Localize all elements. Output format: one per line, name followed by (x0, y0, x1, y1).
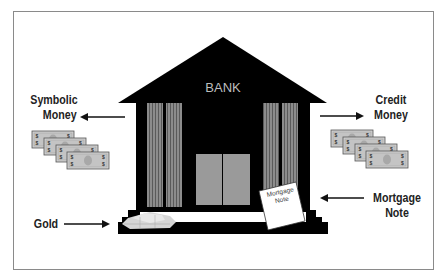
bank-diagram-scene: $ $ $ $ (0, 0, 445, 280)
label-line: Note (370, 205, 424, 220)
label-gold: Gold (33, 216, 59, 231)
label-line: Money (371, 107, 412, 122)
column (166, 103, 182, 207)
label-mortgage-note: Mortgage Note (370, 190, 424, 220)
banknote-stack-icon (32, 131, 109, 169)
label-line: Credit (371, 92, 412, 107)
label-symbolic-money: Symbolic Money (29, 92, 78, 122)
bank-label: BANK (193, 80, 253, 95)
column (147, 103, 163, 207)
label-line: Mortgage (370, 190, 424, 205)
label-line: Money (29, 107, 78, 122)
bank-door (223, 154, 250, 205)
label-credit-money: Credit Money (371, 92, 412, 122)
banknote-stack-icon (331, 130, 408, 168)
bank-door (196, 154, 222, 205)
label-line: Symbolic (29, 92, 78, 107)
